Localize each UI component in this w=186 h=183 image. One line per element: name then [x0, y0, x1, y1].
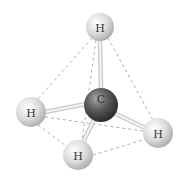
atom-h-top: H [86, 13, 114, 41]
atom-label: H [26, 107, 36, 120]
bond-c-bottom-highlight [83, 118, 95, 142]
methane-diagram: H H C H H [0, 0, 186, 183]
atom-h-left: H [16, 97, 46, 127]
edge-bottom-right [93, 140, 143, 155]
atom-label: C [97, 93, 105, 106]
atom-h-bottom: H [63, 140, 93, 170]
atom-label: H [153, 128, 163, 141]
atom-h-right: H [143, 118, 173, 148]
atom-label: H [73, 150, 83, 163]
bond-c-top-highlight [100, 40, 101, 90]
edge-top-left [38, 38, 92, 99]
edge-left-bottom [38, 125, 66, 146]
bond-c-right-highlight [114, 113, 145, 128]
atom-c-center: C [84, 88, 118, 122]
atom-label: H [95, 22, 105, 35]
bond-c-left-highlight [45, 104, 86, 112]
